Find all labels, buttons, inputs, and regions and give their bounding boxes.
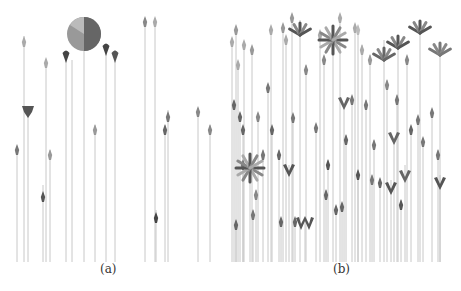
figure-canvas — [0, 0, 461, 291]
arrow-icon — [196, 106, 200, 117]
leaf-icon — [410, 21, 431, 33]
arrow-icon — [350, 94, 354, 105]
arrow-icon — [261, 149, 265, 160]
arrow-icon — [322, 54, 326, 65]
arrow-icon — [284, 34, 288, 45]
arrow-icon — [338, 12, 342, 23]
star-icon — [319, 26, 347, 54]
arrow-icon — [48, 149, 52, 160]
arrow-icon — [154, 212, 158, 223]
arrow-icon — [326, 159, 330, 170]
arrow-icon — [153, 16, 157, 27]
arrow-icon — [15, 144, 19, 155]
leaf-icon — [374, 48, 395, 60]
arrow-icon — [277, 149, 281, 160]
arrow-icon — [395, 94, 399, 105]
arrow-icon — [314, 122, 318, 133]
arrow-icon — [269, 24, 273, 35]
arrow-icon — [421, 136, 425, 147]
panel-b-caption: (b) — [333, 262, 350, 276]
arrow-icon — [241, 124, 245, 135]
arrow-icon — [93, 124, 97, 135]
arrow-icon — [234, 24, 238, 35]
arrow-icon — [256, 111, 260, 122]
arrow-icon — [270, 124, 274, 135]
arrow-icon — [266, 82, 270, 93]
arrow-icon — [399, 199, 403, 210]
arrow-icon — [356, 169, 360, 180]
leaf-icon — [388, 36, 409, 48]
circle-icon — [67, 17, 101, 51]
arrow-icon — [208, 124, 212, 135]
arrow-icon — [166, 111, 170, 122]
drop-icon — [63, 51, 70, 64]
arrow-icon — [364, 99, 368, 110]
arrow-icon — [409, 124, 413, 135]
leaf-icon — [290, 23, 311, 35]
arrow-icon — [281, 22, 285, 33]
arrow-icon — [251, 209, 255, 220]
arrow-icon — [368, 54, 372, 65]
arrow-icon — [230, 36, 234, 47]
arrow-icon — [41, 191, 45, 202]
leaf-icon — [430, 43, 451, 55]
arrow-icon — [143, 16, 147, 27]
arrow-icon — [163, 124, 167, 135]
arrow-icon — [250, 44, 254, 55]
arrow-icon — [290, 12, 294, 23]
arrow-icon — [405, 54, 409, 65]
arrow-icon — [360, 44, 364, 55]
arrow-icon — [242, 39, 246, 50]
arrow-icon — [22, 36, 26, 47]
arrow-icon — [334, 204, 338, 215]
panel-a-caption: (a) — [100, 262, 117, 276]
arrow-icon — [291, 112, 295, 123]
panel-a-plants — [15, 16, 212, 262]
arrow-icon — [378, 177, 382, 188]
arrow-icon — [430, 107, 434, 118]
drop-icon — [103, 44, 110, 57]
arrow-icon — [372, 139, 376, 150]
panel-b-plants — [230, 12, 451, 262]
arrow-icon — [385, 79, 389, 90]
arrow-icon — [304, 64, 308, 75]
arrow-icon — [44, 57, 48, 68]
arrow-icon — [356, 24, 360, 35]
drop-icon — [112, 51, 119, 64]
